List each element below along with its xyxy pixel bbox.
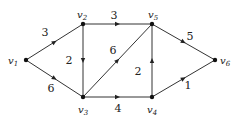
edge-weight: 4 bbox=[115, 102, 122, 115]
node-v3: v3 bbox=[78, 95, 89, 117]
edges: 363264215 bbox=[26, 9, 215, 115]
node-label: v6 bbox=[220, 55, 231, 68]
edge-v2-v3: 2 bbox=[66, 24, 86, 97]
edge-weight: 5 bbox=[187, 30, 194, 43]
node-label: v2 bbox=[77, 9, 88, 22]
edge-v1-v3: 6 bbox=[26, 60, 83, 97]
node-v1: v1 bbox=[8, 55, 28, 68]
edge-weight: 6 bbox=[110, 44, 117, 57]
edge-weight: 3 bbox=[42, 26, 49, 39]
edge-weight: 2 bbox=[135, 65, 142, 78]
node-label: v1 bbox=[8, 55, 18, 68]
arrow-icon bbox=[51, 41, 56, 46]
edge-v5-v6: 5 bbox=[152, 24, 215, 60]
arrow-icon bbox=[81, 58, 85, 63]
edge-weight: 2 bbox=[66, 54, 73, 67]
edge-v4-v6: 1 bbox=[152, 60, 215, 97]
node-v6: v6 bbox=[213, 55, 231, 68]
edge-v1-v2: 3 bbox=[26, 24, 83, 60]
edge-v2-v5: 3 bbox=[83, 9, 152, 26]
edge-weight: 1 bbox=[185, 79, 192, 92]
node-label: v4 bbox=[147, 104, 157, 117]
node-v4: v4 bbox=[147, 95, 157, 117]
edge-v3-v5: 6 bbox=[83, 24, 152, 97]
edge-v4-v5: 2 bbox=[135, 24, 155, 97]
arrow-icon bbox=[115, 95, 120, 99]
directed-graph: 363264215 v1v2v3v4v5v6 bbox=[0, 0, 239, 121]
node-label: v5 bbox=[148, 9, 159, 22]
node-label: v3 bbox=[78, 104, 89, 117]
edge-v3-v4: 4 bbox=[83, 95, 152, 115]
edge-weight: 6 bbox=[48, 82, 55, 95]
arrow-icon bbox=[115, 22, 120, 26]
arrow-icon bbox=[150, 58, 154, 63]
edge-weight: 3 bbox=[111, 9, 118, 22]
arrow-icon bbox=[51, 75, 56, 80]
